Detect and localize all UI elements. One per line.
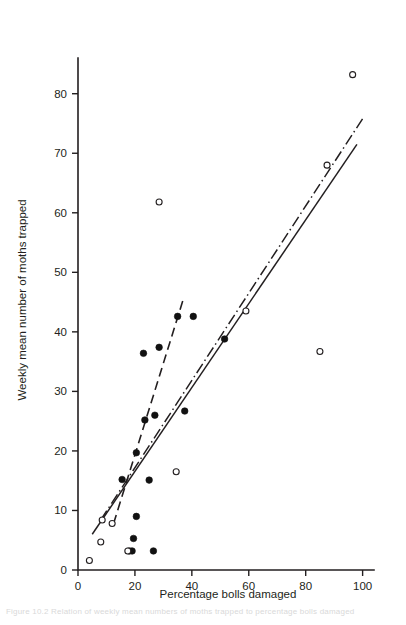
figure-panel: 01020304050607080020406080100 Percentage… xyxy=(0,0,406,625)
data-point-open xyxy=(109,521,115,527)
data-point-filled xyxy=(119,476,126,483)
data-point-filled xyxy=(130,535,137,542)
data-point-filled xyxy=(174,313,181,320)
data-point-filled xyxy=(133,513,140,520)
data-point-open xyxy=(156,199,162,205)
y-tick-label: 0 xyxy=(61,564,67,576)
x-axis-title: Percentage bolls damaged xyxy=(160,588,297,600)
data-point-open xyxy=(125,548,131,554)
data-point-filled xyxy=(152,412,159,419)
data-point-open xyxy=(243,308,249,314)
data-point-filled xyxy=(142,417,149,424)
y-tick-label: 20 xyxy=(54,445,67,457)
y-tick-label: 60 xyxy=(54,207,67,219)
data-point-filled xyxy=(181,408,188,415)
data-point-filled xyxy=(146,477,153,484)
y-tick-label: 10 xyxy=(54,504,67,516)
data-points-group xyxy=(86,72,355,564)
x-tick-label: 100 xyxy=(353,580,372,592)
data-point-open xyxy=(350,72,356,78)
y-tick-label: 40 xyxy=(54,326,67,338)
y-tick-label: 30 xyxy=(54,385,67,397)
data-point-open xyxy=(173,469,179,475)
data-point-filled xyxy=(156,344,163,351)
y-tick-label: 70 xyxy=(54,147,67,159)
figure-caption: Figure 10.2 Relation of weekly mean numb… xyxy=(0,607,406,625)
data-point-filled xyxy=(133,449,140,456)
y-tick-label: 80 xyxy=(54,88,67,100)
x-tick-label: 80 xyxy=(299,580,312,592)
data-point-open xyxy=(86,557,92,563)
fit-lines-group xyxy=(92,119,362,535)
data-point-open xyxy=(317,349,323,355)
data-point-filled xyxy=(150,548,157,555)
dashed-regression-line xyxy=(114,299,184,523)
data-point-filled xyxy=(140,350,147,357)
scatter-plot: 01020304050607080020406080100 Percentage… xyxy=(0,0,406,625)
x-tick-label: 20 xyxy=(129,580,142,592)
ticks-group xyxy=(72,94,363,576)
x-tick-label: 0 xyxy=(75,580,81,592)
data-point-open xyxy=(324,162,330,168)
data-point-filled xyxy=(190,313,197,320)
dash-dot-regression-line xyxy=(101,119,363,520)
data-point-open xyxy=(98,539,104,545)
y-axis-title: Weekly mean number of moths trapped xyxy=(16,199,28,400)
y-tick-label: 50 xyxy=(54,266,67,278)
data-point-filled xyxy=(221,336,228,343)
data-point-open xyxy=(99,517,105,523)
